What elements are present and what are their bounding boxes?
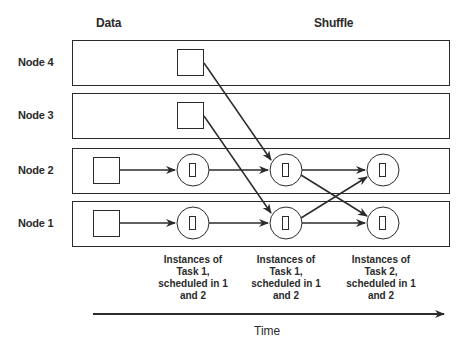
header-shuffle: Shuffle bbox=[314, 16, 353, 30]
caption-line: Task 1, bbox=[148, 266, 238, 278]
caption-line: scheduled in 1 bbox=[241, 278, 331, 290]
node-label-4: Node 4 bbox=[18, 56, 53, 68]
node-4-lane bbox=[73, 41, 450, 86]
caption-line: scheduled in 1 bbox=[336, 278, 426, 290]
task1-instance-node2-col1 bbox=[177, 154, 209, 186]
data-block-node-2 bbox=[94, 158, 120, 184]
node-label-2: Node 2 bbox=[18, 164, 53, 176]
arrow-node4-data-to-node2-task1 bbox=[204, 63, 271, 160]
data-block-node-3 bbox=[178, 103, 204, 129]
caption-line: Instances of bbox=[241, 254, 331, 266]
caption-line: scheduled in 1 bbox=[148, 278, 238, 290]
task1-instance-node1-col1 bbox=[177, 207, 209, 239]
task1-instance-node2-col2 bbox=[270, 154, 302, 186]
data-block-node-4 bbox=[178, 50, 204, 76]
arrow-node2-task1-to-node1-task2 bbox=[301, 175, 367, 216]
caption-line: and 2 bbox=[148, 290, 238, 302]
caption-col3: Instances of Task 2, scheduled in 1 and … bbox=[336, 254, 426, 302]
time-axis-label: Time bbox=[254, 324, 280, 338]
caption-line: and 2 bbox=[241, 290, 331, 302]
task2-instance-node1 bbox=[367, 207, 399, 239]
caption-line: Task 1, bbox=[241, 266, 331, 278]
node-3-lane bbox=[73, 94, 450, 139]
task2-instance-node2 bbox=[367, 154, 399, 186]
caption-line: Instances of bbox=[148, 254, 238, 266]
caption-line: and 2 bbox=[336, 290, 426, 302]
arrow-node1-task1-to-node2-task2 bbox=[301, 177, 367, 218]
caption-col2: Instances of Task 1, scheduled in 1 and … bbox=[241, 254, 331, 302]
header-data: Data bbox=[96, 16, 121, 30]
caption-line: Instances of bbox=[336, 254, 426, 266]
task1-instance-node1-col2 bbox=[270, 207, 302, 239]
arrow-node3-data-to-node1-task1 bbox=[204, 116, 271, 213]
caption-col1: Instances of Task 1, scheduled in 1 and … bbox=[148, 254, 238, 302]
node-label-1: Node 1 bbox=[18, 217, 53, 229]
caption-line: Task 2, bbox=[336, 266, 426, 278]
node-label-3: Node 3 bbox=[18, 109, 53, 121]
data-block-node-1 bbox=[94, 211, 120, 237]
